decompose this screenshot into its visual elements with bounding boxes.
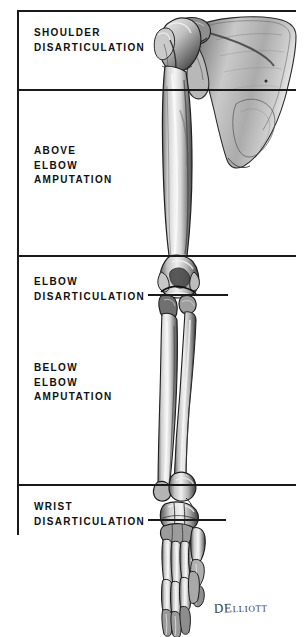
label-line-1: WRIST <box>34 500 145 515</box>
elbow-joint-group <box>158 255 200 321</box>
humerus-shaft-group <box>162 66 192 263</box>
label-below-elbow-amputation: BELOW ELBOW AMPUTATION <box>34 361 113 405</box>
divider-shoulder-above-elbow <box>17 89 296 91</box>
label-wrist-disarticulation: WRIST DISARTICULATION <box>34 500 145 529</box>
label-line-1: BELOW <box>34 361 113 376</box>
label-above-elbow-amputation: ABOVE ELBOW AMPUTATION <box>34 144 113 188</box>
label-shoulder-disarticulation: SHOULDER DISARTICULATION <box>34 26 145 55</box>
label-line-1: SHOULDER <box>34 26 145 41</box>
divider-below-elbow-wrist <box>17 484 296 486</box>
wrist-disarticulation-leader-line <box>148 519 226 521</box>
label-elbow-disarticulation: ELBOW DISARTICULATION <box>34 275 145 304</box>
label-line-3: AMPUTATION <box>34 390 113 405</box>
amputation-levels-figure: SHOULDER DISARTICULATION ABOVE ELBOW AMP… <box>0 0 308 637</box>
label-line-2: DISARTICULATION <box>34 290 145 305</box>
divider-above-elbow-elbow <box>17 255 296 257</box>
ulna-group <box>153 313 177 501</box>
label-line-2: ELBOW <box>34 376 113 391</box>
skeletal-arm-illustration <box>0 0 308 637</box>
frame-top-border <box>17 10 296 12</box>
label-line-2: ELBOW <box>34 159 113 174</box>
label-line-1: ABOVE <box>34 144 113 159</box>
artist-signature: DElliott <box>214 599 268 616</box>
elbow-disarticulation-leader-line <box>148 294 228 296</box>
label-line-1: ELBOW <box>34 275 145 290</box>
label-line-3: AMPUTATION <box>34 173 113 188</box>
label-line-2: DISARTICULATION <box>34 515 145 530</box>
label-line-2: DISARTICULATION <box>34 41 145 56</box>
